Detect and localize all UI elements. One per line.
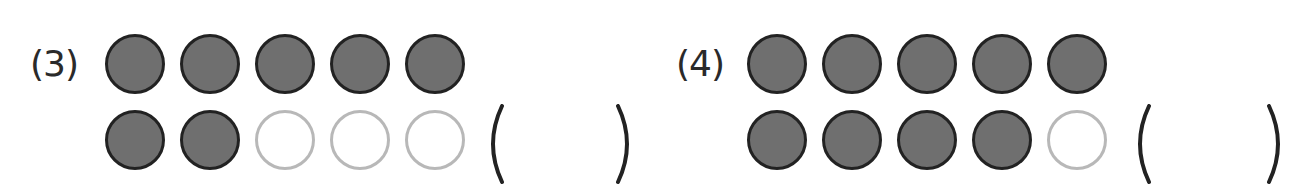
filled-counter-circle bbox=[822, 34, 882, 94]
filled-counter-circle bbox=[822, 110, 882, 170]
filled-counter-circle bbox=[747, 34, 807, 94]
filled-counter-circle bbox=[405, 34, 465, 94]
problem-label: (4) bbox=[676, 46, 724, 82]
empty-counter-circle bbox=[405, 110, 465, 170]
filled-counter-circle bbox=[105, 34, 165, 94]
close-bracket-icon bbox=[1253, 104, 1293, 184]
empty-counter-circle bbox=[255, 110, 315, 170]
problem-label: (3) bbox=[30, 46, 78, 82]
filled-counter-circle bbox=[180, 110, 240, 170]
filled-counter-circle bbox=[897, 110, 957, 170]
filled-counter-circle bbox=[330, 34, 390, 94]
answer-value[interactable] bbox=[510, 125, 610, 165]
filled-counter-circle bbox=[972, 110, 1032, 170]
filled-counter-circle bbox=[1047, 34, 1107, 94]
filled-counter-circle bbox=[180, 34, 240, 94]
filled-counter-circle bbox=[255, 34, 315, 94]
filled-counter-circle bbox=[897, 34, 957, 94]
empty-counter-circle bbox=[330, 110, 390, 170]
problem-3: (3) bbox=[0, 0, 649, 193]
filled-counter-circle bbox=[105, 110, 165, 170]
filled-counter-circle bbox=[747, 110, 807, 170]
empty-counter-circle bbox=[1047, 110, 1107, 170]
filled-counter-circle bbox=[972, 34, 1032, 94]
answer-value[interactable] bbox=[1159, 125, 1259, 165]
problem-4: (4) bbox=[649, 0, 1298, 193]
